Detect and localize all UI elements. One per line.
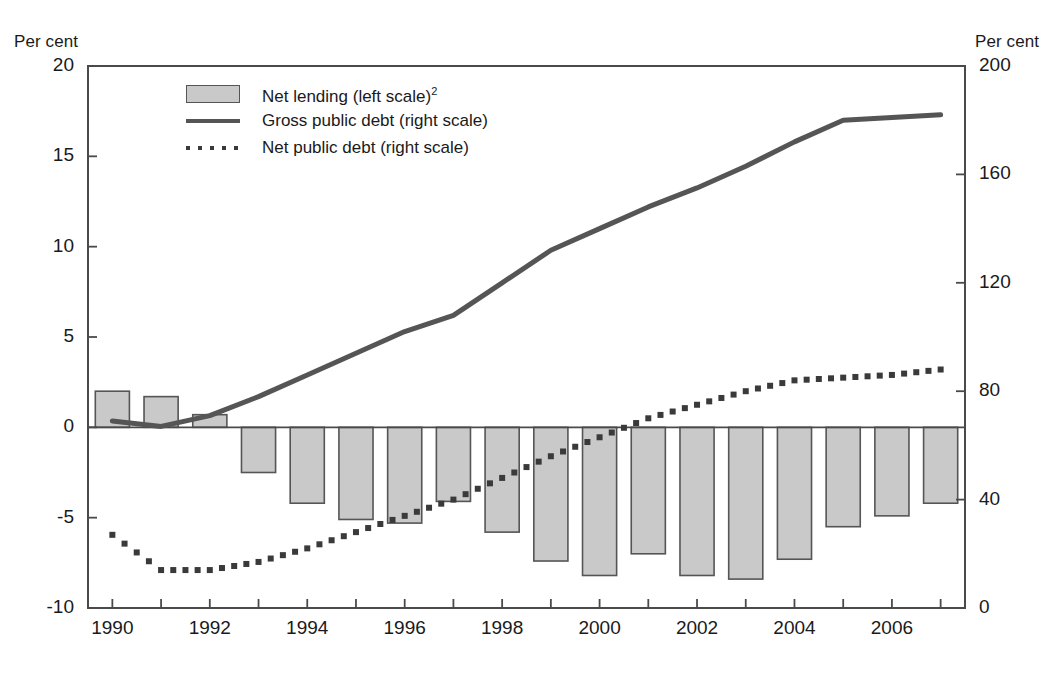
x-tick-label: 1996 bbox=[365, 618, 445, 637]
dot bbox=[621, 425, 627, 431]
bar bbox=[290, 427, 324, 503]
dot bbox=[231, 563, 237, 569]
x-tick-label: 1994 bbox=[267, 618, 347, 637]
dot bbox=[377, 521, 383, 527]
left-tick-label: 15 bbox=[53, 145, 74, 164]
dot bbox=[122, 541, 128, 547]
left-tick-label: 5 bbox=[63, 326, 74, 345]
dot bbox=[292, 549, 298, 555]
bar bbox=[680, 427, 714, 575]
dot bbox=[499, 475, 505, 481]
dot bbox=[767, 383, 773, 389]
left-tick-label: -5 bbox=[57, 507, 74, 526]
x-tick-label: 1992 bbox=[170, 618, 250, 637]
dot bbox=[256, 559, 262, 565]
dot bbox=[304, 545, 310, 551]
dot bbox=[195, 567, 201, 573]
dot bbox=[865, 373, 871, 379]
bar bbox=[777, 427, 811, 559]
dot bbox=[645, 415, 651, 421]
right-tick-label: 80 bbox=[979, 380, 1000, 399]
dot bbox=[134, 549, 140, 555]
dot bbox=[755, 385, 761, 391]
dot bbox=[670, 409, 676, 415]
dot bbox=[731, 392, 737, 398]
x-tick-label: 2002 bbox=[657, 618, 737, 637]
dot bbox=[779, 380, 785, 386]
dot bbox=[329, 537, 335, 543]
dot bbox=[816, 376, 822, 382]
dot bbox=[925, 368, 931, 374]
bar bbox=[875, 427, 909, 516]
bar bbox=[534, 427, 568, 561]
right-tick-label: 160 bbox=[979, 163, 1011, 182]
dot bbox=[511, 470, 517, 476]
bar bbox=[583, 427, 617, 575]
dot bbox=[536, 459, 542, 465]
dot bbox=[158, 567, 164, 573]
dot bbox=[852, 374, 858, 380]
dot bbox=[170, 567, 176, 573]
bar bbox=[241, 427, 275, 472]
dot bbox=[243, 561, 249, 567]
dot bbox=[597, 434, 603, 440]
dot bbox=[584, 439, 590, 445]
dot bbox=[146, 558, 152, 564]
left-tick-label: 10 bbox=[53, 236, 74, 255]
dot bbox=[706, 398, 712, 404]
line-net-public-debt bbox=[109, 367, 943, 574]
bar bbox=[826, 427, 860, 526]
left-tick-label: 20 bbox=[53, 55, 74, 74]
dot bbox=[548, 453, 554, 459]
dot bbox=[182, 567, 188, 573]
bar bbox=[339, 427, 373, 519]
dot bbox=[572, 444, 578, 450]
dot bbox=[109, 532, 115, 538]
dot bbox=[426, 505, 432, 511]
dot bbox=[877, 373, 883, 379]
dot bbox=[280, 552, 286, 558]
dot bbox=[609, 430, 615, 436]
dot bbox=[938, 367, 944, 373]
dot bbox=[463, 491, 469, 497]
dot bbox=[390, 517, 396, 523]
x-tick-label: 2004 bbox=[754, 618, 834, 637]
dot bbox=[743, 388, 749, 394]
dot bbox=[682, 405, 688, 411]
bar-series-net-lending bbox=[95, 391, 957, 579]
dot bbox=[524, 464, 530, 470]
x-tick-label: 1990 bbox=[72, 618, 152, 637]
bar bbox=[924, 427, 958, 503]
dot bbox=[718, 395, 724, 401]
right-tick-label: 40 bbox=[979, 489, 1000, 508]
dot bbox=[828, 375, 834, 381]
x-tick-label: 2006 bbox=[852, 618, 932, 637]
dot bbox=[475, 486, 481, 492]
dot bbox=[316, 541, 322, 547]
bar bbox=[388, 427, 422, 523]
dot bbox=[365, 525, 371, 531]
dot bbox=[657, 412, 663, 418]
dot bbox=[840, 375, 846, 381]
plot-area bbox=[0, 0, 1044, 673]
chart-figure: Per cent Per cent Net lending (left scal… bbox=[0, 0, 1044, 673]
x-tick-label: 2000 bbox=[560, 618, 640, 637]
right-tick-label: 0 bbox=[979, 597, 990, 616]
right-tick-label: 200 bbox=[979, 55, 1011, 74]
dot bbox=[694, 402, 700, 408]
dot bbox=[402, 513, 408, 519]
dot bbox=[438, 501, 444, 507]
dot bbox=[353, 529, 359, 535]
dot bbox=[804, 377, 810, 383]
dot bbox=[219, 565, 225, 571]
dot bbox=[268, 556, 274, 562]
dot bbox=[913, 369, 919, 375]
dot bbox=[889, 372, 895, 378]
dot bbox=[414, 509, 420, 515]
dot bbox=[560, 448, 566, 454]
x-tick-label: 1998 bbox=[462, 618, 542, 637]
right-tick-label: 120 bbox=[979, 272, 1011, 291]
dot bbox=[450, 497, 456, 503]
dot bbox=[633, 420, 639, 426]
dot bbox=[791, 377, 797, 383]
